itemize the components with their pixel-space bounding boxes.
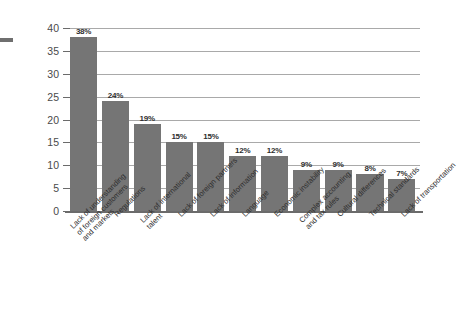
y-tick-mark bbox=[63, 165, 70, 166]
y-tick-label: 5 bbox=[33, 183, 59, 193]
gridline bbox=[70, 51, 420, 52]
y-tick-mark bbox=[63, 188, 70, 189]
bar-value-label: 12% bbox=[261, 146, 288, 155]
y-tick-label: 40 bbox=[33, 23, 59, 33]
y-tick-label: 30 bbox=[33, 69, 59, 79]
y-tick-mark bbox=[63, 74, 70, 75]
y-tick-mark bbox=[63, 97, 70, 98]
y-tick-label: 0 bbox=[33, 206, 59, 216]
y-tick-label: 25 bbox=[33, 92, 59, 102]
y-tick-label: 20 bbox=[33, 115, 59, 125]
gridline bbox=[70, 28, 420, 29]
bar-value-label: 19% bbox=[134, 114, 161, 123]
x-axis-labels: Lack of understandingof foreign customer… bbox=[70, 213, 438, 328]
bar-value-label: 15% bbox=[197, 132, 224, 141]
gridline bbox=[70, 74, 420, 75]
bar-value-label: 38% bbox=[70, 27, 97, 36]
bar-value-label: 12% bbox=[229, 146, 256, 155]
bar-value-label: 9% bbox=[325, 160, 352, 169]
y-tick-mark bbox=[63, 51, 70, 52]
bar-value-label: 24% bbox=[102, 91, 129, 100]
y-tick-mark bbox=[63, 120, 70, 121]
y-tick-label: 15 bbox=[33, 137, 59, 147]
bar bbox=[70, 37, 97, 211]
bar-value-label: 15% bbox=[166, 132, 193, 141]
y-tick-mark bbox=[63, 142, 70, 143]
y-tick-label: 10 bbox=[33, 160, 59, 170]
scan-artifact-dash bbox=[0, 38, 13, 42]
y-tick-mark bbox=[63, 28, 70, 29]
y-tick-label: 35 bbox=[33, 46, 59, 56]
